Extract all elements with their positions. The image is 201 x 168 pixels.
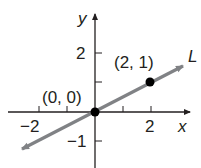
tick-label-y-2: 2 (76, 44, 85, 63)
point-2-1 (146, 78, 155, 87)
tick-label-x-2: 2 (145, 117, 154, 136)
coordinate-plane: y x L 2 −1 −2 2 (0, 0) (2, 1) (0, 0, 201, 168)
y-axis-label: y (77, 9, 88, 28)
x-axis-label: x (177, 117, 187, 136)
y-ticks (95, 53, 102, 141)
line-label: L (188, 47, 197, 66)
point-origin (91, 108, 100, 117)
point-label-origin: (0, 0) (42, 88, 82, 107)
line-L (22, 66, 183, 149)
tick-label-y-neg1: −1 (67, 132, 86, 151)
tick-label-x-neg2: −2 (20, 117, 39, 136)
point-label-2-1: (2, 1) (114, 53, 154, 72)
